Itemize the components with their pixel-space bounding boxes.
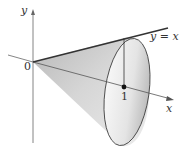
point-x-1	[122, 85, 127, 90]
y-axis: y	[20, 4, 35, 143]
cone-diagram: y x y = x 1 0	[0, 0, 196, 159]
x-axis-label: x	[166, 102, 173, 115]
y-axis-label: y	[20, 4, 28, 17]
line-label: y = x	[149, 30, 179, 43]
point-label: 1	[121, 90, 128, 103]
x-axis-arrow-icon	[166, 96, 174, 101]
y-axis-arrow-icon	[31, 9, 35, 15]
origin-label: 0	[24, 60, 31, 73]
